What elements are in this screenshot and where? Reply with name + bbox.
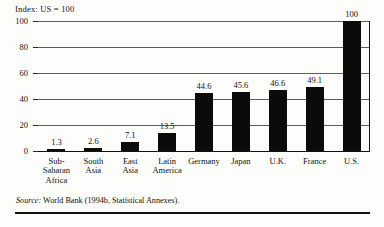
tick-mark-20 bbox=[33, 125, 38, 126]
x-axis-category-label: Sub-SaharanAfrica bbox=[43, 157, 70, 185]
bar bbox=[306, 87, 324, 151]
x-axis-category-label: France bbox=[303, 157, 326, 166]
plot-right-border bbox=[369, 21, 370, 152]
y-axis-tick-label: 40 bbox=[20, 94, 29, 104]
category-label-line: Germany bbox=[188, 157, 220, 166]
bottom-rule bbox=[15, 212, 370, 214]
x-axis-category-label: SouthAsia bbox=[83, 157, 103, 176]
bar-value-label: 7.1 bbox=[125, 130, 136, 140]
bar-value-label: 13.5 bbox=[160, 121, 175, 131]
x-axis-category-label: Japan bbox=[231, 157, 250, 166]
figure-bar-chart: Index: US = 100 0204060801001.3Sub-Sahar… bbox=[0, 0, 384, 227]
bar bbox=[232, 92, 250, 151]
y-axis-tick-label: 0 bbox=[24, 146, 28, 156]
gridline-100 bbox=[38, 21, 370, 22]
bar bbox=[121, 142, 139, 151]
tick-mark-80 bbox=[33, 47, 38, 48]
bar bbox=[195, 93, 213, 151]
plot-area: 0204060801001.3Sub-SaharanAfrica2.6South… bbox=[38, 21, 370, 151]
gridline-80 bbox=[38, 47, 370, 48]
category-label-line: U.S. bbox=[344, 157, 359, 166]
category-label-line: Asia bbox=[122, 166, 138, 175]
category-label-line: France bbox=[303, 157, 326, 166]
x-axis-category-label: Germany bbox=[188, 157, 220, 166]
y-axis-tick-label: 60 bbox=[20, 68, 29, 78]
bar-value-label: 2.6 bbox=[88, 136, 99, 146]
y-axis-tick-label: 100 bbox=[15, 16, 28, 26]
y-axis-tick-label: 80 bbox=[20, 42, 29, 52]
bar-value-label: 100 bbox=[345, 9, 358, 19]
bar bbox=[269, 90, 287, 151]
gridline-60 bbox=[38, 73, 370, 74]
bar-value-label: 46.6 bbox=[270, 78, 285, 88]
chart-title: Index: US = 100 bbox=[15, 4, 75, 14]
x-axis-category-label: LatinAmerica bbox=[152, 157, 181, 176]
x-axis-category-label: EastAsia bbox=[122, 157, 138, 176]
tick-mark-100 bbox=[33, 21, 38, 22]
category-label-line: Africa bbox=[43, 176, 70, 185]
source-label: Source: bbox=[16, 196, 41, 205]
y-axis-tick-label: 20 bbox=[20, 120, 29, 130]
x-axis-category-label: U.S. bbox=[344, 157, 359, 166]
category-label-line: Asia bbox=[83, 166, 103, 175]
tick-mark-0 bbox=[33, 151, 38, 152]
bar-value-label: 44.6 bbox=[197, 81, 212, 91]
bar bbox=[84, 148, 102, 151]
bar-value-label: 45.6 bbox=[233, 80, 248, 90]
bar bbox=[158, 133, 176, 151]
source-text: World Bank (1994b, Statistical Annexes). bbox=[43, 196, 179, 205]
category-label-line: America bbox=[152, 166, 181, 175]
category-label-line: Japan bbox=[231, 157, 250, 166]
bar bbox=[343, 21, 361, 151]
bar-value-label: 49.1 bbox=[307, 75, 322, 85]
category-label-line: U.K. bbox=[270, 157, 287, 166]
bar-value-label: 1.3 bbox=[51, 137, 62, 147]
source-note: Source: World Bank (1994b, Statistical A… bbox=[16, 196, 179, 205]
tick-mark-60 bbox=[33, 73, 38, 74]
tick-mark-40 bbox=[33, 99, 38, 100]
x-axis-category-label: U.K. bbox=[270, 157, 287, 166]
bar bbox=[47, 149, 65, 152]
